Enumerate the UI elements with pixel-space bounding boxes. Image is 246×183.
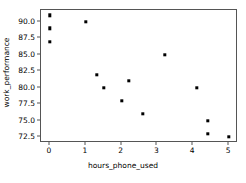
y-tick-label: 87.5 — [18, 33, 35, 42]
y-tick-mark — [37, 53, 40, 54]
y-axis-label: work_performance — [2, 28, 11, 118]
x-tick-mark — [84, 142, 85, 145]
y-tick-label: 82.5 — [18, 66, 35, 75]
x-tick-mark — [228, 142, 229, 145]
data-point — [227, 135, 230, 138]
x-tick-label: 1 — [82, 146, 87, 155]
data-point — [95, 73, 98, 76]
x-axis-label: hours_phone_used — [0, 161, 246, 170]
x-tick-label: 5 — [226, 146, 231, 155]
x-tick-label: 4 — [190, 146, 195, 155]
y-tick-mark — [37, 20, 40, 21]
x-tick-label: 0 — [47, 146, 52, 155]
y-tick-label: 80.0 — [18, 82, 35, 91]
data-point — [206, 132, 209, 135]
y-tick-label: 77.5 — [18, 99, 35, 108]
y-tick-mark — [37, 86, 40, 87]
data-point — [84, 20, 87, 23]
data-point — [141, 112, 144, 115]
plot-data-area — [41, 10, 236, 141]
y-tick-label: 72.5 — [18, 132, 35, 141]
y-tick-mark — [37, 37, 40, 38]
data-point — [102, 86, 105, 89]
x-tick-mark — [192, 142, 193, 145]
plot-axes-frame — [40, 9, 237, 142]
y-tick-mark — [37, 136, 40, 137]
y-tick-mark — [37, 119, 40, 120]
data-point — [195, 86, 198, 89]
x-tick-label: 3 — [154, 146, 159, 155]
y-tick-mark — [37, 70, 40, 71]
data-point — [163, 53, 166, 56]
data-point — [120, 99, 123, 102]
y-tick-label: 75.0 — [18, 115, 35, 124]
y-tick-mark — [37, 103, 40, 104]
data-point — [48, 40, 51, 43]
scatter-plot-figure: 012345 90.087.585.082.580.077.575.072.5 … — [0, 0, 246, 183]
x-tick-label: 2 — [118, 146, 123, 155]
data-point — [48, 14, 51, 17]
x-tick-mark — [120, 142, 121, 145]
x-tick-mark — [156, 142, 157, 145]
y-tick-label: 85.0 — [18, 49, 35, 58]
x-tick-mark — [48, 142, 49, 145]
data-point — [48, 27, 51, 30]
data-point — [206, 119, 209, 122]
y-tick-label: 90.0 — [18, 16, 35, 25]
data-point — [127, 79, 130, 82]
